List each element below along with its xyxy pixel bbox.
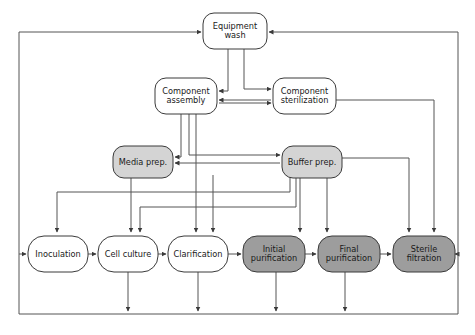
- node-equipment-wash[interactable]: Equipmentwash: [203, 13, 267, 49]
- node-shape-media-prep: [113, 146, 173, 178]
- node-shape-buffer-prep: [282, 146, 342, 178]
- node-clarification[interactable]: Clarification: [168, 236, 228, 272]
- node-shape-clarification: [168, 236, 228, 272]
- nodes-layer: EquipmentwashComponentassemblyComponents…: [28, 13, 455, 272]
- node-shape-final-purification: [318, 236, 380, 272]
- node-shape-initial-purification: [243, 236, 305, 272]
- node-inoculation[interactable]: Inoculation: [28, 236, 88, 272]
- node-component-assembly[interactable]: Componentassembly: [155, 78, 217, 114]
- node-shape-component-assembly: [155, 78, 217, 114]
- edges-layer: [19, 32, 458, 314]
- edge-eqwash-to-sterilization: [244, 49, 271, 89]
- node-shape-component-sterilization: [273, 78, 336, 114]
- node-shape-inoculation: [28, 236, 88, 272]
- node-cell-culture[interactable]: Cell culture: [98, 236, 158, 272]
- node-shape-equipment-wash: [203, 13, 267, 49]
- edge-buffer-to-inoculation: [57, 178, 290, 232]
- process-flow-diagram: EquipmentwashComponentassemblyComponents…: [0, 0, 475, 335]
- edge-buffer-to-cell-culture: [140, 178, 296, 232]
- node-media-prep[interactable]: Media prep.: [113, 146, 173, 178]
- edge-assembly-to-media: [175, 114, 181, 157]
- node-sterile-filtration[interactable]: Sterilefiltration: [393, 236, 455, 272]
- edge-eqwash-to-assembly: [219, 49, 228, 91]
- node-shape-sterile-filtration: [393, 236, 455, 272]
- node-shape-cell-culture: [98, 236, 158, 272]
- edge-buffer-to-sterile-filtration: [342, 158, 409, 232]
- node-initial-purification[interactable]: Initialpurification: [243, 236, 305, 272]
- edge-assembly-to-buffer: [189, 114, 280, 155]
- node-component-sterilization[interactable]: Componentsterilization: [273, 78, 336, 114]
- flow-diagram-canvas: EquipmentwashComponentassemblyComponents…: [0, 0, 475, 335]
- node-final-purification[interactable]: Finalpurification: [318, 236, 380, 272]
- node-buffer-prep[interactable]: Buffer prep.: [282, 146, 342, 178]
- edge-sterilization-to-sterile-filtration: [336, 100, 434, 232]
